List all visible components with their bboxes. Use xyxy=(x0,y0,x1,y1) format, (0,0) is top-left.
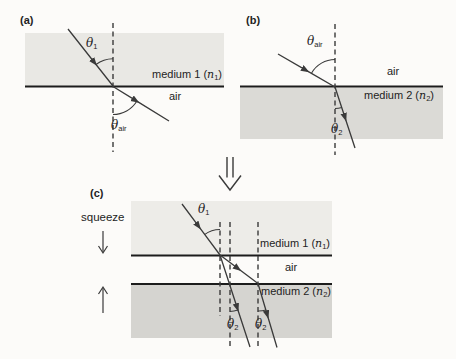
panel-b-label: (b) xyxy=(246,15,260,26)
panel-c-medium1-label: medium 1 (n1) xyxy=(252,238,330,251)
panel-b-incident-ray xyxy=(278,54,335,87)
panel-c-air-label: air xyxy=(285,262,297,273)
panel-a-theta-air-label: θair xyxy=(111,119,127,133)
panel-a-theta1-label: θ1 xyxy=(86,37,97,51)
panel-b-medium2-label: medium 2 (n2) xyxy=(364,90,434,103)
panel-c-medium2-label: medium 2 (n2) xyxy=(261,286,331,299)
double-down-arrow-icon xyxy=(219,157,241,190)
panel-c-theta1-label: θ1 xyxy=(198,203,209,217)
panel-c-theta2-right-label: θ2 xyxy=(255,318,266,332)
panel-c-label: (c) xyxy=(90,188,103,199)
panel-b-theta-air-arc xyxy=(312,59,335,73)
panel-a-refracted-ray xyxy=(113,87,169,122)
panel-b-air-label: air xyxy=(387,66,399,77)
panel-c-air-gap-ray xyxy=(220,255,258,284)
panel-c-theta2-left-label: θ2 xyxy=(227,318,238,332)
panel-b-theta-air-label: θair xyxy=(307,35,323,49)
panel-a-label: (a) xyxy=(20,15,33,26)
figure-canvas xyxy=(0,0,456,359)
panel-a-medium1-label: medium 1 (n1) xyxy=(140,69,222,82)
panel-b-theta2-label: θ2 xyxy=(331,123,342,137)
panel-a-theta-air-arc xyxy=(113,101,137,114)
panel-a-air-label: air xyxy=(169,91,181,102)
refraction-figure: (a) θ1 medium 1 (n1) air θair (b) θair a… xyxy=(0,0,456,359)
squeeze-label: squeeze xyxy=(81,212,124,224)
